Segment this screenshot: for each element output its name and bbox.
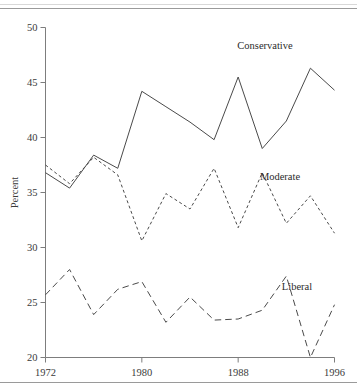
y-tick-label: 25 [27,297,38,308]
series-line-moderate [46,157,335,241]
y-tick-label: 45 [27,77,38,88]
y-axis-title: Percent [9,177,20,209]
x-tick-label: 1988 [228,367,249,378]
series-label-moderate: Moderate [260,171,301,182]
x-tick-label: 1972 [35,367,56,378]
y-tick-label: 35 [27,187,38,198]
series-label-liberal: Liberal [282,281,312,292]
y-tick-label: 50 [27,22,38,33]
y-tick-label: 40 [27,132,38,143]
y-tick-label: 20 [27,352,38,363]
y-tick-label: 30 [27,242,38,253]
x-tick-label: 1996 [324,367,345,378]
series-label-conservative: Conservative [237,40,293,51]
axes [41,28,335,363]
tick-labels: 202530354045501972198019881996 [27,22,345,377]
series-annotations: ConservativeModerateLiberal [237,40,312,292]
line-chart: 202530354045501972198019881996 Percent C… [0,0,357,387]
data-series [46,68,335,357]
figure-container: 202530354045501972198019881996 Percent C… [0,0,357,387]
y-axis-title-text: Percent [9,177,20,209]
x-tick-label: 1980 [131,367,152,378]
